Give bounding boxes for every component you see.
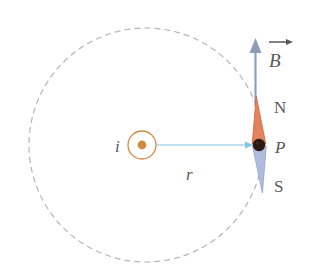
compass-needle-pivot-highlight — [256, 142, 259, 145]
radius-arrowhead-icon — [245, 141, 253, 148]
b-vector-overbar-arrowhead-icon — [286, 39, 293, 45]
radius-vector-group — [157, 141, 253, 148]
magnetic-field-vector-arrow — [250, 38, 262, 106]
current-out-of-page-symbol — [128, 131, 156, 159]
b-vector-overbar — [269, 39, 293, 45]
diagram-canvas: i r N P S B — [0, 0, 309, 274]
point-p-label: P — [274, 138, 285, 157]
current-label: i — [115, 137, 120, 156]
needle-south-label: S — [274, 177, 283, 196]
compass-needle-south-half — [253, 146, 267, 193]
current-dot-icon — [138, 141, 147, 150]
physics-diagram-figure: i r N P S B — [0, 0, 309, 274]
needle-north-label: N — [274, 98, 286, 117]
magnetic-field-label: B — [269, 50, 281, 71]
b-arrowhead-icon — [250, 38, 262, 53]
compass-needle-pivot — [253, 139, 265, 151]
compass-needle-north-half — [252, 96, 266, 144]
compass-needle-group — [252, 96, 266, 193]
radius-label: r — [186, 165, 193, 184]
